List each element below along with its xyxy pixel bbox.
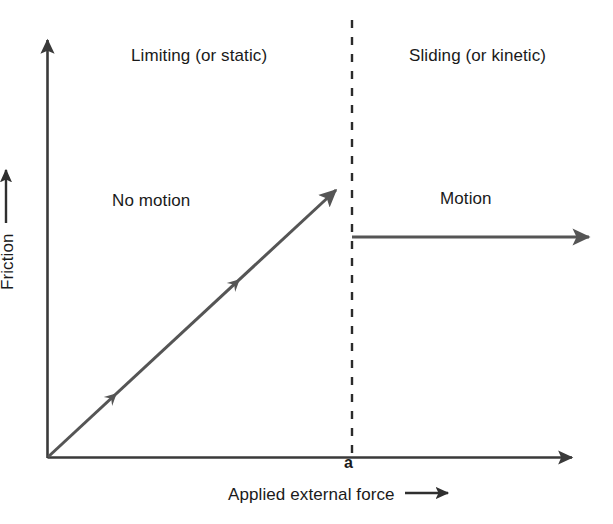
y-axis-title: Friction [0, 162, 16, 290]
threshold-tick-label-a: a [344, 455, 353, 471]
state-label-no-motion: No motion [112, 192, 190, 209]
right-arrow-icon [404, 486, 456, 503]
y-axis-title-text: Friction [0, 233, 16, 290]
friction-diagram: Limiting (or static) Sliding (or kinetic… [0, 0, 613, 524]
x-axis-title: Applied external force [228, 486, 456, 503]
static-friction-line [48, 190, 336, 457]
state-label-motion: Motion [440, 190, 492, 207]
up-arrow-icon [0, 162, 16, 224]
region-label-limiting: Limiting (or static) [131, 47, 267, 64]
diagram-canvas [0, 0, 613, 524]
region-label-sliding: Sliding (or kinetic) [409, 47, 546, 64]
x-axis-title-text: Applied external force [228, 486, 395, 503]
